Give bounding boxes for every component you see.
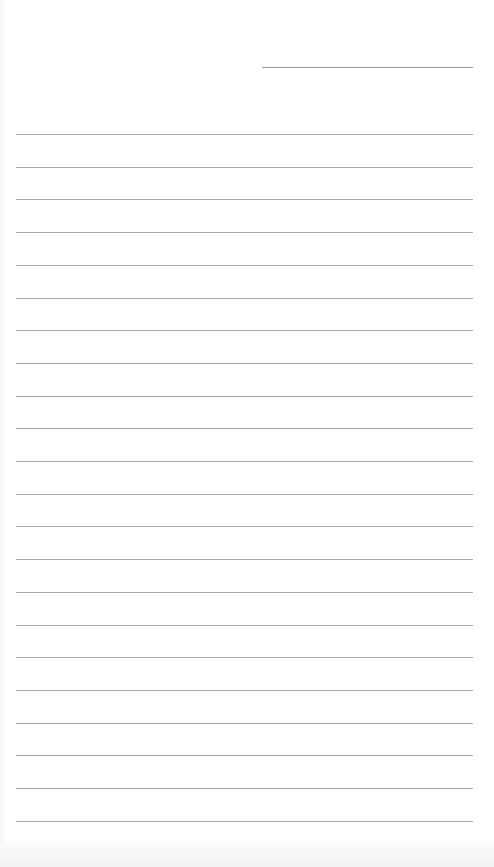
- ruled-line: [16, 265, 473, 266]
- ruled-line: [16, 723, 473, 724]
- page-bottom-shadow: [0, 843, 494, 867]
- ruled-line: [16, 657, 473, 658]
- ruled-line: [16, 821, 473, 822]
- ruled-line: [16, 788, 473, 789]
- ruled-line: [16, 330, 473, 331]
- ruled-line: [16, 396, 473, 397]
- ruled-line: [16, 298, 473, 299]
- ruled-line: [16, 559, 473, 560]
- ruled-line: [16, 526, 473, 527]
- ruled-line: [16, 690, 473, 691]
- ruled-line: [16, 625, 473, 626]
- ruled-line: [16, 592, 473, 593]
- page-edge-shadow: [0, 0, 6, 867]
- ruled-line: [16, 461, 473, 462]
- ruled-line: [16, 232, 473, 233]
- ruled-line: [16, 755, 473, 756]
- header-write-line: [262, 67, 473, 68]
- ruled-line: [16, 134, 473, 135]
- ruled-line: [16, 428, 473, 429]
- ruled-line: [16, 494, 473, 495]
- ruled-line: [16, 363, 473, 364]
- ruled-line: [16, 199, 473, 200]
- ruled-line: [16, 167, 473, 168]
